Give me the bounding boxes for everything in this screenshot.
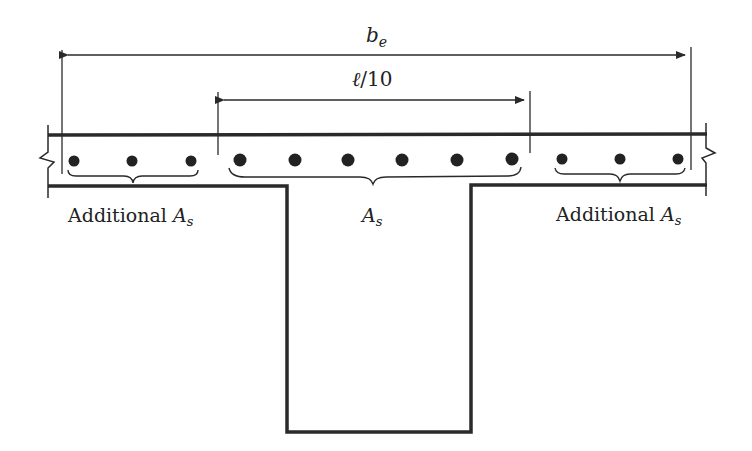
additional-bar — [186, 156, 197, 167]
label-additional-as-left: Additional As — [67, 204, 194, 229]
span-fraction-dimension: ℓ/10 — [218, 67, 530, 155]
label-as-center: As — [360, 204, 383, 229]
l10-label: ℓ/10 — [352, 67, 393, 91]
main-bar — [289, 154, 302, 167]
grouping-braces — [68, 167, 685, 184]
main-bar — [451, 154, 464, 167]
brace-right-icon — [555, 168, 685, 181]
flange-top-edge — [48, 134, 707, 135]
main-bar — [234, 154, 247, 167]
brace-center-icon — [229, 167, 521, 184]
effective-width-dimension: be — [62, 23, 691, 174]
main-bar — [396, 154, 409, 167]
additional-bar — [673, 154, 684, 165]
brace-left-icon — [68, 170, 198, 183]
t-beam-section — [40, 123, 715, 432]
main-bar — [506, 153, 519, 166]
additional-bar — [557, 154, 568, 165]
additional-bar — [69, 156, 80, 167]
label-additional-as-right: Additional As — [555, 203, 682, 228]
reinforcing-bars — [69, 153, 684, 167]
main-bar — [342, 154, 355, 167]
additional-bar — [615, 154, 626, 165]
additional-bar — [127, 156, 138, 167]
be-label: be — [366, 23, 387, 50]
t-beam-diagram: be ℓ/10 — [0, 0, 752, 451]
